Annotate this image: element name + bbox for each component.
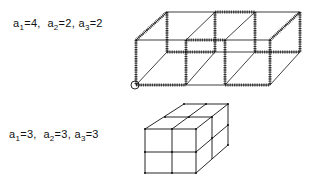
diagram-canvas	[0, 0, 312, 184]
hatched-path	[136, 12, 300, 85]
box-3-3-3-figure	[145, 104, 228, 173]
box-4-2-2-figure	[136, 12, 300, 85]
